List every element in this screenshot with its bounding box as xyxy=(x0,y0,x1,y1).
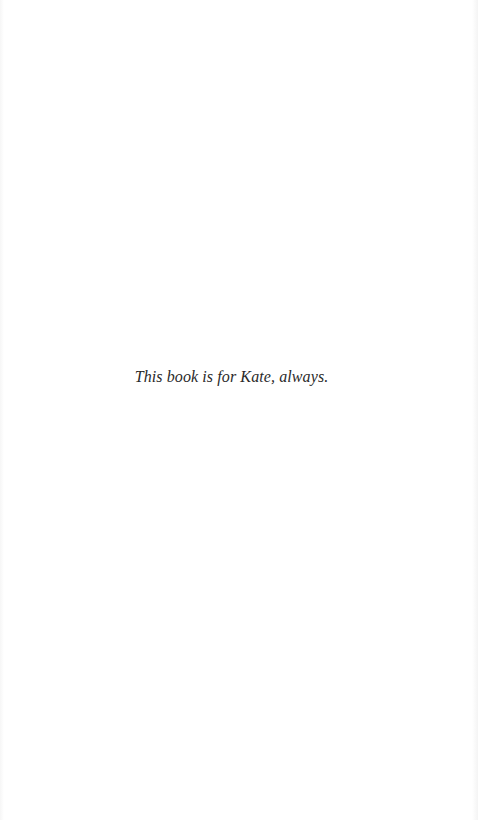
book-page: This book is for Kate, always. xyxy=(0,0,478,820)
dedication-text: This book is for Kate, always. xyxy=(0,367,463,387)
page-edge-left xyxy=(0,0,4,820)
page-edge-right xyxy=(472,0,478,820)
